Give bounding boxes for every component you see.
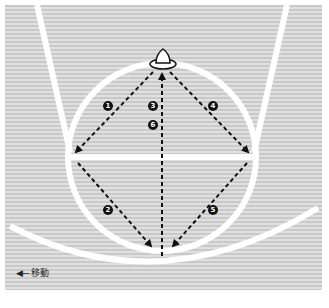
step-number-4: 4 <box>208 101 218 111</box>
legend: ◀--- 移動 <box>16 266 49 279</box>
right-lane-line <box>254 5 287 152</box>
left-lane-line <box>37 5 70 152</box>
cone-icon <box>150 49 176 69</box>
step-number-5: 5 <box>208 205 218 215</box>
legend-label: 移動 <box>31 266 49 279</box>
step-number-6: 6 <box>148 120 158 130</box>
step-number-3: 3 <box>148 101 158 111</box>
arrow-step-1 <box>76 72 153 152</box>
step-number-1: 1 <box>103 101 113 111</box>
court-diagram <box>0 0 329 308</box>
step-number-2: 2 <box>103 205 113 215</box>
dashed-arrow-icon: ◀--- <box>16 268 29 278</box>
arrow-step-2 <box>78 163 151 246</box>
arrow-step-4 <box>170 72 248 152</box>
